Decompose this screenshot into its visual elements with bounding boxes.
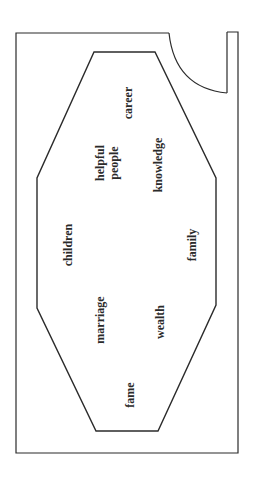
label-career: career [121, 86, 135, 119]
label-family: family [185, 229, 199, 262]
label-people-text: people [107, 146, 121, 180]
door-arc [169, 33, 227, 93]
label-marriage: marriage [93, 296, 107, 344]
label-helpful-text: helpful [93, 144, 107, 181]
label-fame: fame [123, 382, 137, 408]
label-wealth-text: wealth [153, 305, 167, 339]
label-family-text: family [185, 229, 199, 262]
label-knowledge-text: knowledge [151, 137, 165, 192]
bagua-diagram: career helpful people knowledge children… [0, 0, 254, 481]
label-marriage-text: marriage [93, 296, 107, 344]
label-fame-text: fame [123, 382, 137, 408]
label-children: children [61, 223, 75, 266]
label-helpful-people: helpful people [93, 144, 121, 181]
label-wealth: wealth [153, 305, 167, 339]
label-children-text: children [61, 223, 75, 266]
label-career-text: career [121, 86, 135, 119]
label-knowledge: knowledge [151, 137, 165, 192]
